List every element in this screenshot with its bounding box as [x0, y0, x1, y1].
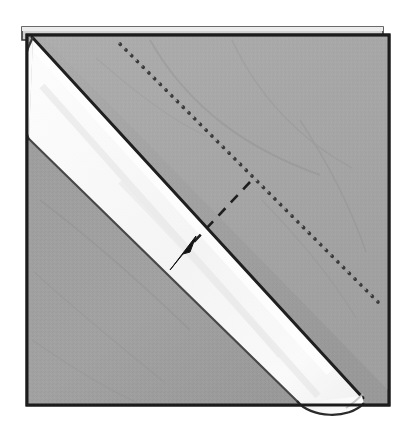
diagram-canvas [0, 0, 411, 435]
fold-diagram-figure: Square sheet folded on the diagonal with… [0, 0, 411, 435]
